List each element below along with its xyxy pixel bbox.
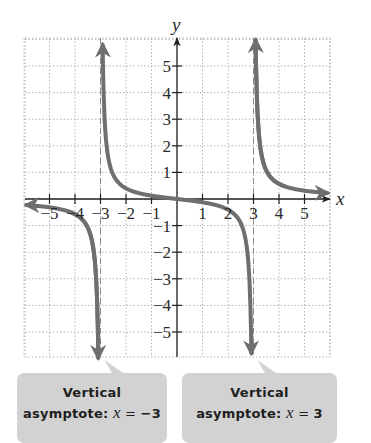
svg-text:3: 3	[163, 110, 172, 129]
branch-right-upper	[256, 40, 284, 186]
branch-left-lower	[70, 212, 98, 358]
svg-text:5: 5	[163, 57, 172, 76]
svg-text:2: 2	[163, 137, 172, 156]
x-axis-label: x	[335, 188, 345, 209]
branch-middle-right	[177, 199, 251, 353]
svg-text:−4: −4	[66, 204, 85, 223]
svg-text:−1: −1	[153, 217, 171, 236]
y-axis-label: y	[170, 14, 181, 35]
svg-text:4: 4	[275, 204, 284, 223]
svg-text:3: 3	[249, 204, 258, 223]
callout-asymptote-left: Vertical asymptote: x = −3	[17, 373, 167, 443]
svg-text:1: 1	[163, 163, 172, 182]
svg-text:−2: −2	[153, 243, 171, 262]
svg-text:2: 2	[224, 204, 233, 223]
callout-asymptote-right: Vertical asymptote: x = 3	[182, 373, 337, 443]
svg-text:−5: −5	[153, 323, 171, 342]
branch-right-lower	[256, 40, 328, 193]
callout-title: Vertical	[17, 383, 167, 403]
svg-text:−3: −3	[91, 204, 109, 223]
svg-text:1: 1	[198, 204, 207, 223]
svg-text:−5: −5	[40, 204, 58, 223]
callout-equation: asymptote: x = 3	[182, 403, 337, 424]
svg-text:5: 5	[300, 204, 309, 223]
callout-title: Vertical	[182, 383, 337, 403]
svg-text:−4: −4	[153, 296, 172, 315]
svg-text:−2: −2	[117, 204, 135, 223]
svg-text:−3: −3	[153, 270, 171, 289]
callout-pointers	[105, 360, 278, 374]
callout-equation: asymptote: x = −3	[17, 403, 167, 424]
svg-text:4: 4	[163, 84, 172, 103]
